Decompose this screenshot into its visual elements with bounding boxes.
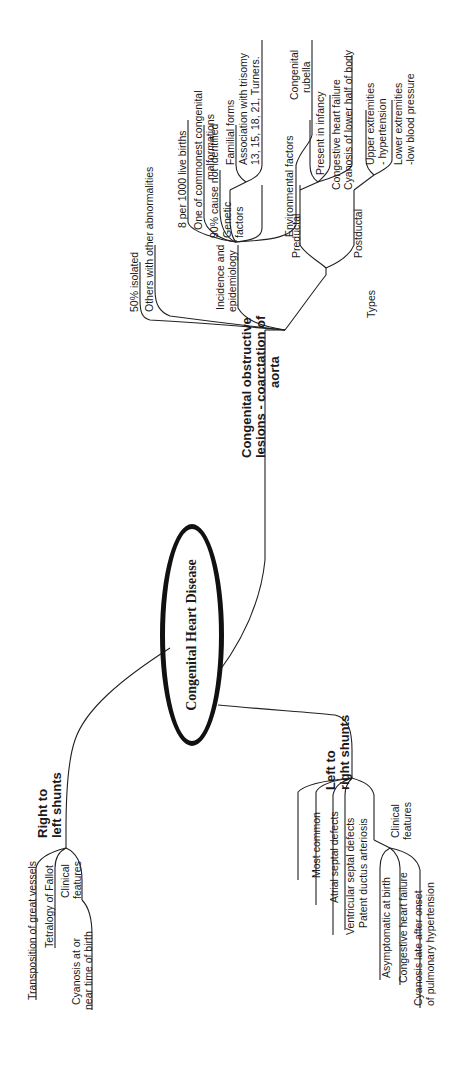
tga-label: Transposition of great vessels [26, 861, 38, 1000]
asymptomatic-label: Asymptomatic at birth [380, 877, 392, 978]
others-label: Others with other abnormalities [143, 167, 155, 312]
rtl-clinical-line-2: features [71, 861, 83, 899]
genetic-line-1: Genetic [221, 202, 233, 238]
coarctation-line-2: lesions - coarctation of [254, 316, 268, 458]
rtl-cyanosis-line-1: Cyanosis at or [70, 938, 82, 1005]
ltr-cyanosis-line-1: Cyanosis late after onset [412, 890, 424, 1006]
coarctation-line-3: aorta [268, 356, 282, 388]
vsd-label: Ventricular septal defects [344, 818, 356, 935]
rtl-clinical-line-1: Clinical [59, 864, 71, 898]
familial-label: Familial forms [224, 100, 236, 165]
ltr-cyanosis-line-2: of pulmonary hypertension [424, 882, 436, 1006]
asd-label: Atrial septal defects [328, 811, 340, 903]
rtl-cyanosis-line-2: near time of birth [82, 931, 94, 1010]
incidence-line-2: epidemiology [226, 250, 238, 312]
ltr-clinical-line-1: Clinical [389, 804, 401, 838]
pda-label: Patent ductus arteriosis [357, 818, 369, 928]
genetic-line-2: factors [233, 206, 245, 238]
postductal-item-1-line-2: - hypertension [376, 98, 388, 165]
ltr-line-1: Left to [324, 750, 338, 790]
coarctation-line-1: Congenital obstructive [240, 317, 254, 458]
central-topic-node: Congenital Heart Disease [160, 524, 224, 746]
preductal-item-2: Congestive heart failure [330, 79, 342, 190]
postductal-item-2-line-2: -low blood pressure [404, 73, 416, 165]
incidence-line-1: Incidence and [214, 245, 226, 310]
tof-label: Tetralogy of Fallot [43, 865, 55, 948]
rtl-line-1: Right to [36, 789, 50, 838]
preductal-label: Preductal [290, 214, 302, 258]
cause-label: 90% cause not identified [208, 124, 220, 238]
rubella-line-1: Congenital [288, 50, 300, 100]
most-common-label: Most common [310, 812, 322, 878]
central-topic-label: Congenital Heart Disease [184, 559, 200, 711]
preductal-item-1: Present in infancy [314, 92, 326, 175]
births-label: 8 per 1000 live births [176, 131, 188, 228]
ltr-clinical-line-2: features [401, 802, 413, 840]
preductal-item-3: Cyanosis of lower half of body [342, 50, 354, 190]
postductal-item-1-line-1: Upper extremities [364, 83, 376, 165]
commonest-line-1: One of commonest congenital [192, 91, 204, 231]
types-label: Types [365, 290, 377, 318]
ltr-line-2: right shunts [338, 715, 352, 790]
trisomy-line-1: Association with trisomy [237, 53, 249, 165]
ltr-chf-label: Congestive heart failure [397, 872, 409, 983]
rtl-line-2: left shunts [50, 772, 64, 838]
postductal-label: Postductal [352, 209, 364, 258]
rubella-line-2: rubella [300, 61, 312, 93]
postductal-item-2-line-1: Lower extremities [392, 83, 404, 165]
isolated-label: 50% isolated [128, 252, 140, 312]
trisomy-line-2: 13, 15, 18, 21, Turners. [249, 56, 261, 165]
